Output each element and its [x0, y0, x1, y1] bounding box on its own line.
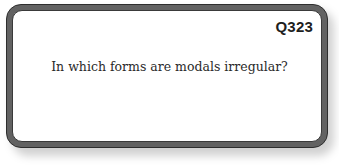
flashcard-face: Q323	[12, 10, 322, 142]
flashcard: Q323	[6, 4, 328, 148]
question-id: Q323	[276, 18, 314, 35]
question-text: In which forms are modals irregular?	[0, 59, 339, 74]
